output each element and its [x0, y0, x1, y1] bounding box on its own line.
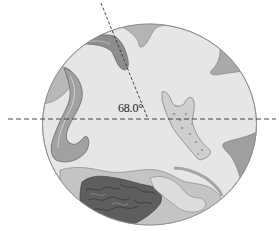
- angle-label: 68.0°: [118, 101, 143, 116]
